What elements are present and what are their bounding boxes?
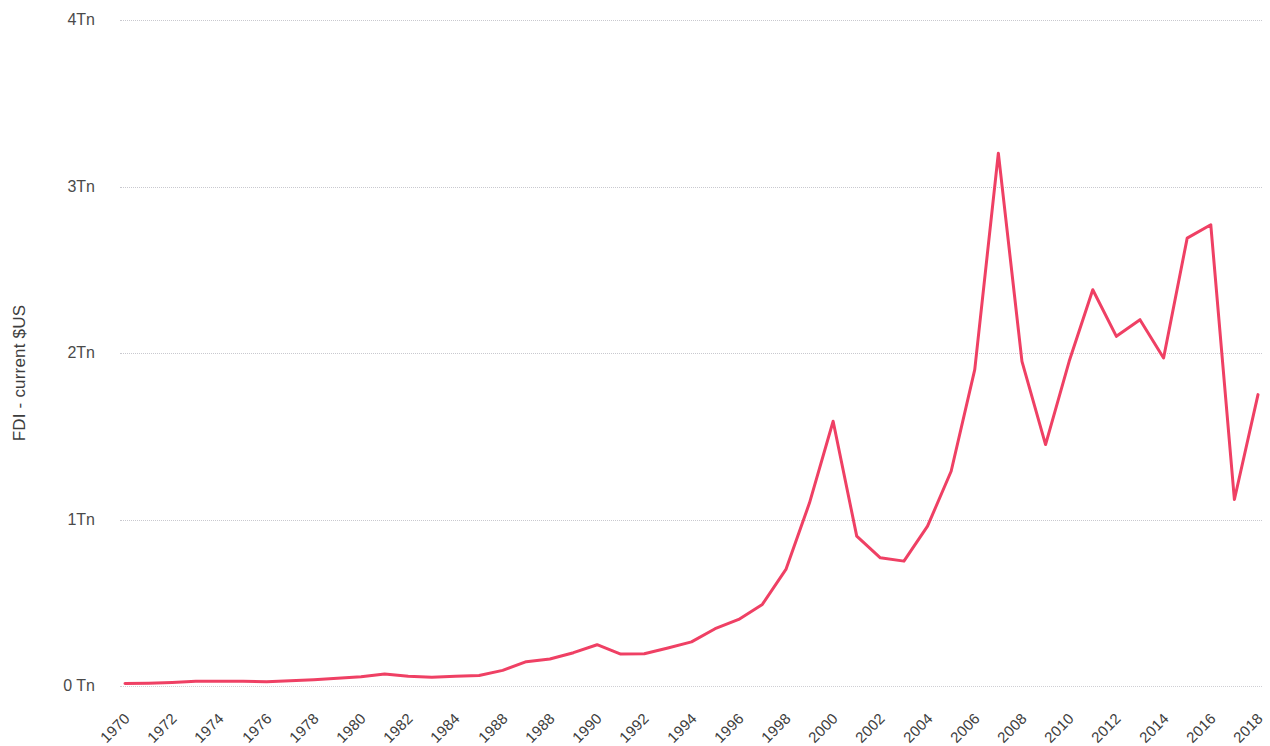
fdi-line-chart: FDI - current $US 0 Tn1Tn2Tn3Tn4Tn 19701… [0, 0, 1270, 746]
series-line-fdi [125, 153, 1258, 683]
plot-area [0, 0, 1270, 746]
